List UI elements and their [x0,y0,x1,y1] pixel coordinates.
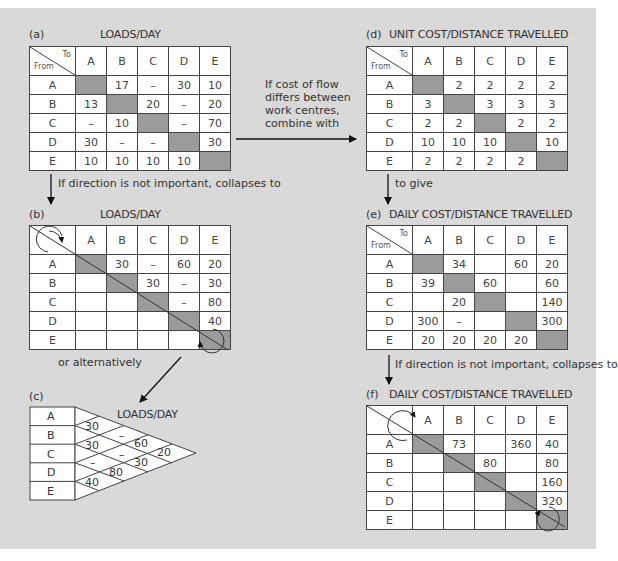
to-label: To [400,229,408,238]
table-row: A 2 2 2 2 [367,76,568,95]
table-row: C 2 2 2 2 [367,114,568,133]
diagonal-cell [506,492,537,511]
cell [138,331,169,350]
cell: 2 [444,152,475,171]
cell [413,473,444,492]
panel-c-tag: (c) [29,390,44,403]
panel-a-tag: (a) [29,28,44,41]
pair-value-ab: 30 [85,420,99,433]
row-header: B [367,454,413,473]
diagonal-cell [76,255,107,274]
panel-d-matrix: To From A B C D E A 2 2 2 2 B 3 3 3 3 C … [366,46,568,171]
table-row: D 300 – 300 [367,312,568,331]
cell [506,511,537,530]
from-label: From [34,62,54,71]
cell [475,435,506,454]
panel-f-tag: (f) [366,388,378,401]
cell: 20 [475,331,506,350]
row-header: E [367,331,413,350]
cell: 300 [537,312,568,331]
cell: 2 [444,114,475,133]
panel-a-matrix: To From A B C D E A 17 – 30 10 B 13 20 –… [29,46,231,171]
row-header: A [30,255,76,274]
cell: – [169,95,200,114]
table-row: C – 10 – 70 [30,114,231,133]
table-row: C 20 140 [367,293,568,312]
row-header: E [367,152,413,171]
table-row: E 2 2 2 2 [367,152,568,171]
cell [413,511,444,530]
cell: 20 [444,293,475,312]
diagonal-cell [200,152,231,171]
diagonal-cell [107,95,138,114]
cell: – [138,76,169,95]
cell: – [76,114,107,133]
column-header: B [444,226,475,255]
column-header: E [537,406,568,435]
cell [107,312,138,331]
cell [169,331,200,350]
cell: 140 [537,293,568,312]
table-row: B 39 60 60 [367,274,568,293]
corner-cell: To From [367,226,413,255]
cell [475,312,506,331]
diagonal-cell [413,76,444,95]
cell: 20 [200,95,231,114]
cell: 300 [413,312,444,331]
diagonal-cell [475,114,506,133]
row-label: D [47,466,55,479]
column-header: C [475,226,506,255]
cell: 2 [506,114,537,133]
cell [107,331,138,350]
cell: 2 [444,76,475,95]
cell: – [107,133,138,152]
cell: 10 [475,133,506,152]
column-header: C [475,406,506,435]
cell: 39 [413,274,444,293]
cell: 10 [169,152,200,171]
cell: – [444,312,475,331]
table-row: B 80 80 [367,454,568,473]
diagonal-cell [537,511,568,530]
cell: 80 [475,454,506,473]
diagonal-cell [138,293,169,312]
corner-cell: To From [30,47,76,76]
cell: 30 [200,133,231,152]
cell [76,312,107,331]
row-header: B [30,274,76,293]
cell: 40 [200,312,231,331]
cell [475,511,506,530]
cell: – [138,255,169,274]
diagonal-cell [444,274,475,293]
row-header: C [30,114,76,133]
cell: 10 [444,133,475,152]
column-header: B [107,226,138,255]
cell: 30 [200,274,231,293]
cell: 17 [107,76,138,95]
cell: – [169,114,200,133]
column-header: D [506,226,537,255]
row-header: D [367,133,413,152]
cell [506,454,537,473]
note-e-to-f: If direction is not important, collapses… [395,358,618,371]
row-header: C [367,473,413,492]
cell: – [169,293,200,312]
cell: 10 [107,114,138,133]
cell [506,473,537,492]
cell [444,492,475,511]
table-row: E 20 20 20 20 [367,331,568,350]
column-header: E [200,47,231,76]
cell: 2 [537,76,568,95]
from-label: From [371,62,391,71]
table-row: B 3 3 3 3 [367,95,568,114]
cell: 73 [444,435,475,454]
note-a-to-b: If direction is not important, collapses… [58,177,281,190]
cell [413,454,444,473]
table-row: C – 80 [30,293,231,312]
column-header: E [537,226,568,255]
column-header: B [444,47,475,76]
cell: 2 [506,76,537,95]
pair-value-ce: 80 [109,466,123,479]
cell: 40 [537,435,568,454]
cell: 2 [475,76,506,95]
